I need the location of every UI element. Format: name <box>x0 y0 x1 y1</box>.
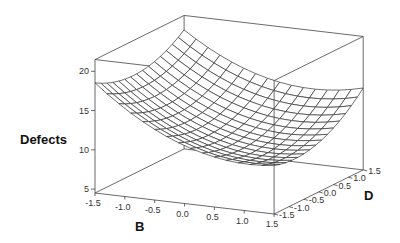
z-axis-label: Defects <box>20 132 67 147</box>
surface-mesh <box>95 30 363 166</box>
x-tick-label: 0.0 <box>176 209 189 219</box>
x-tick-label: -1.0 <box>115 202 131 212</box>
y-tick-label: 1.0 <box>353 173 366 183</box>
y-tick-label: -0.5 <box>309 195 325 205</box>
x-tick-label: 0.5 <box>206 212 219 222</box>
z-tick-label: 10 <box>79 145 89 155</box>
z-axis-ticks: 5101520 <box>79 66 95 194</box>
y-tick-label: 0.5 <box>339 181 352 191</box>
surface-chart: 5101520 -1.5-1.0-0.50.00.51.01.5 -1.5-1.… <box>0 0 400 243</box>
x-tick-label: 1.5 <box>266 219 279 229</box>
y-tick-label: 1.5 <box>368 166 381 176</box>
y-tick-label: 0.0 <box>324 188 337 198</box>
y-tick-label: -1.5 <box>279 210 295 220</box>
x-tick-label: -1.5 <box>85 198 101 208</box>
y-axis-label: D <box>364 188 373 203</box>
z-tick-label: 15 <box>79 106 89 116</box>
x-tick-label: 1.0 <box>236 216 249 226</box>
x-tick-label: -0.5 <box>145 205 161 215</box>
x-axis-label: B <box>135 219 144 234</box>
z-tick-label: 20 <box>79 66 89 76</box>
y-tick-label: -1.0 <box>294 203 310 213</box>
z-tick-label: 5 <box>84 184 89 194</box>
